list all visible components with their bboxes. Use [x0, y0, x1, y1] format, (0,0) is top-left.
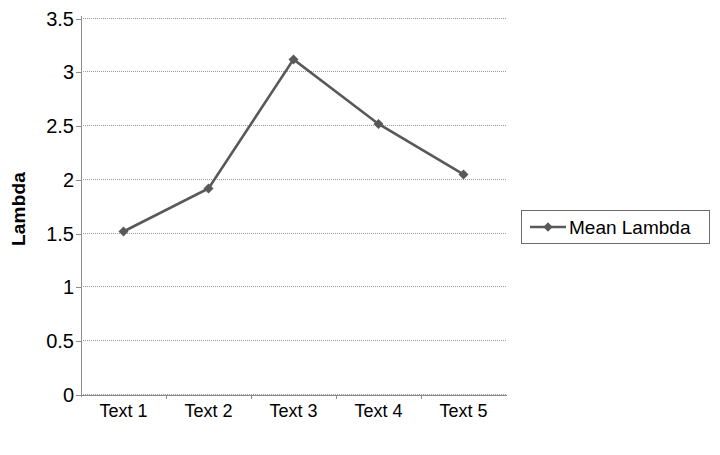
series-line-mean-lambda [124, 59, 464, 231]
legend-entry-mean-lambda: Mean Lambda [522, 211, 709, 243]
legend-marker-icon [529, 220, 567, 234]
data-point-marker [119, 226, 129, 236]
legend: Mean Lambda [521, 210, 710, 244]
line-chart: Lambda 00.511.522.533.5 Text 1Text 2Text… [0, 0, 720, 455]
legend-label: Mean Lambda [569, 218, 690, 237]
